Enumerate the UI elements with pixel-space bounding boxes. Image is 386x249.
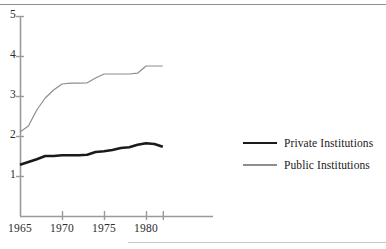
x-axis-ticks bbox=[63, 211, 164, 220]
x-tick-label-1980: 1980 bbox=[126, 222, 166, 234]
data-series-group bbox=[20, 66, 163, 165]
legend-label-public: Public Institutions bbox=[284, 159, 370, 171]
x-tick-label-1970: 1970 bbox=[42, 222, 82, 234]
chart-legend: Private Institutions Public Institutions bbox=[243, 132, 383, 176]
y-tick-label-4: 4 bbox=[2, 48, 16, 60]
axis-lines bbox=[20, 16, 213, 217]
legend-swatch-public-line-icon bbox=[243, 160, 277, 170]
legend-label-private: Private Institutions bbox=[284, 137, 373, 149]
series-line-private-institutions bbox=[20, 143, 163, 165]
legend-item-public: Public Institutions bbox=[243, 154, 383, 176]
y-tick-label-1: 1 bbox=[2, 168, 16, 180]
y-tick-label-3: 3 bbox=[2, 88, 16, 100]
y-tick-label-2: 2 bbox=[2, 128, 16, 140]
line-chart-plot bbox=[0, 0, 386, 249]
legend-swatch-private-line-icon bbox=[243, 138, 277, 148]
legend-item-private: Private Institutions bbox=[243, 132, 383, 154]
x-tick-label-1975: 1975 bbox=[84, 222, 124, 234]
y-tick-label-5: 5 bbox=[2, 8, 16, 20]
x-tick-label-1965: 1965 bbox=[0, 222, 40, 234]
chart-figure: 12345 1965197019751980 Private Instituti… bbox=[0, 0, 386, 249]
series-line-public-institutions bbox=[20, 66, 163, 132]
